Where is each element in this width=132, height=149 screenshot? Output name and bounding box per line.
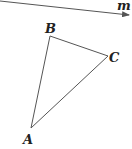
label-b: B — [44, 21, 56, 36]
label-m: m — [117, 0, 131, 13]
label-a: A — [21, 132, 33, 147]
label-c: C — [109, 50, 120, 65]
line-m — [0, 1, 129, 15]
diagram-canvas: m B C A — [0, 0, 132, 149]
triangle-abc — [31, 36, 108, 128]
